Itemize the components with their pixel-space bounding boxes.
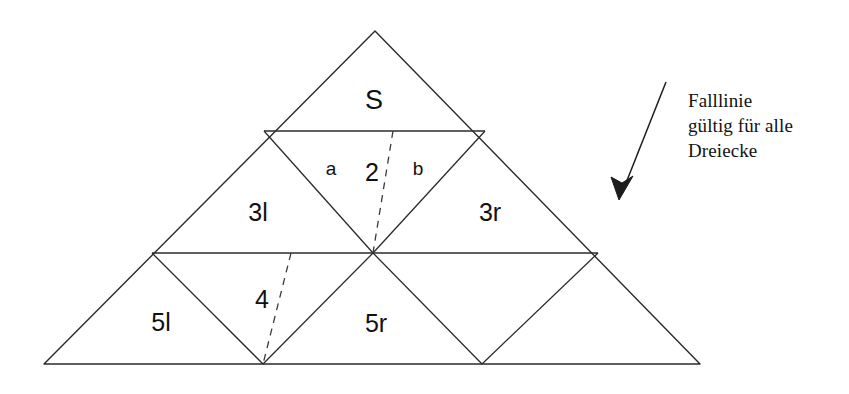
annotation-arrow-icon (611, 82, 666, 200)
cell-label-3l: 3l (248, 200, 267, 225)
edge-left-lean-3 (373, 253, 482, 364)
cell-label-5r: 5r (365, 311, 387, 336)
segment-label-a: a (326, 159, 337, 178)
cell-label-3r: 3r (479, 200, 501, 225)
figure-canvas: S 3l 2 3r 5l 4 5r a b Falllinie gültig f… (0, 0, 849, 394)
edge-right-lean-3 (482, 253, 598, 364)
triangle-grid-diagram (0, 0, 849, 394)
annotation-text: Falllinie gültig für alle Dreiecke (688, 88, 793, 163)
cell-label-5l: 5l (151, 310, 170, 335)
segment-label-b: b (413, 159, 424, 178)
cell-label-S: S (365, 87, 383, 114)
edge-left-lean-1 (264, 131, 373, 253)
edge-right-lean-2 (263, 253, 373, 364)
cell-label-2: 2 (365, 160, 379, 185)
cell-label-4: 4 (255, 287, 269, 312)
